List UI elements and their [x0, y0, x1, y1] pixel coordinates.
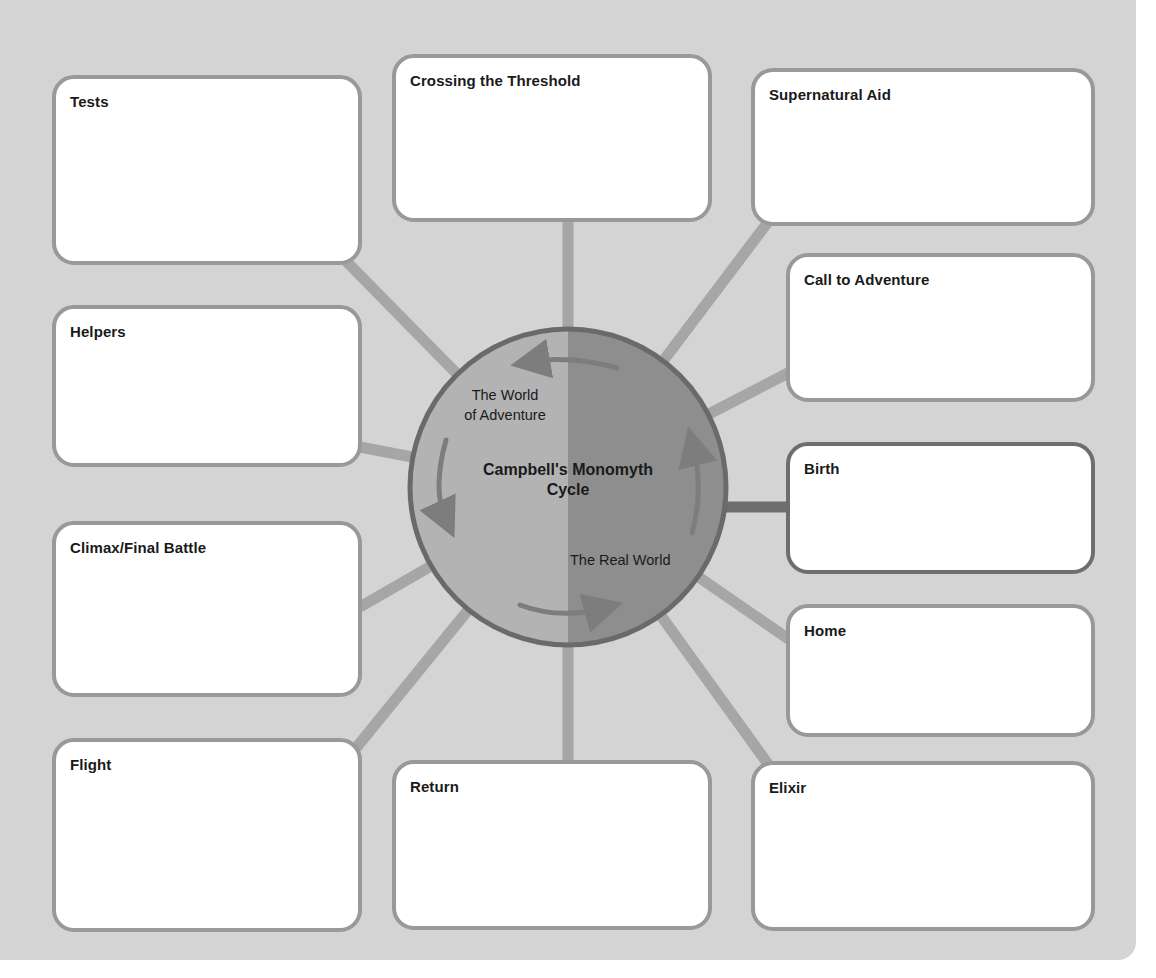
box-return-label: Return [410, 778, 459, 795]
box-supernatural-aid[interactable]: Supernatural Aid [751, 68, 1095, 226]
box-return[interactable]: Return [392, 760, 712, 930]
diagram-title-line1: Campbell's Monomyth [430, 460, 706, 480]
box-flight-label: Flight [70, 756, 111, 773]
box-home[interactable]: Home [786, 604, 1095, 737]
box-flight[interactable]: Flight [52, 738, 362, 932]
box-helpers-label: Helpers [70, 323, 126, 340]
diagram-title: Campbell's Monomyth Cycle [430, 460, 706, 500]
box-crossing-the-threshold-label: Crossing the Threshold [410, 72, 581, 89]
box-birth-label: Birth [804, 460, 840, 477]
box-supernatural-aid-label: Supernatural Aid [769, 86, 891, 103]
box-call-to-adventure-label: Call to Adventure [804, 271, 929, 288]
box-helpers[interactable]: Helpers [52, 305, 362, 467]
world-of-adventure-label: The World of Adventure [440, 385, 570, 425]
box-tests[interactable]: Tests [52, 75, 362, 265]
box-climax-final-battle[interactable]: Climax/Final Battle [52, 521, 362, 697]
diagram-title-line2: Cycle [430, 480, 706, 500]
box-birth[interactable]: Birth [786, 442, 1095, 574]
real-world-label: The Real World [570, 552, 700, 568]
box-elixir-label: Elixir [769, 779, 806, 796]
world-of-adventure-line1: The World [440, 385, 570, 405]
box-call-to-adventure[interactable]: Call to Adventure [786, 253, 1095, 402]
box-elixir[interactable]: Elixir [751, 761, 1095, 931]
box-home-label: Home [804, 622, 846, 639]
box-tests-label: Tests [70, 93, 109, 110]
world-of-adventure-line2: of Adventure [440, 405, 570, 425]
box-crossing-the-threshold[interactable]: Crossing the Threshold [392, 54, 712, 222]
box-climax-final-battle-label: Climax/Final Battle [70, 539, 206, 556]
